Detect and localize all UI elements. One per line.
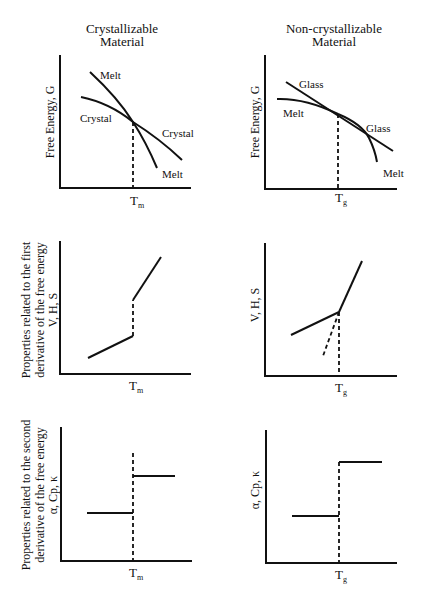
glass-line xyxy=(291,312,339,335)
y-axis-label: α, Cp, κ xyxy=(248,471,262,509)
panel-crystallizable-free-energy: Free Energy, G Melt Crystal Crystal Melt… xyxy=(43,55,194,210)
y-axis-label: V, H, S xyxy=(248,288,262,322)
x-axis-label: Tm xyxy=(129,378,144,395)
svg-text:V, H, S: V, H, S xyxy=(46,293,60,327)
label-melt-top: Melt xyxy=(100,69,121,81)
label-melt-bottom: Melt xyxy=(383,167,404,179)
x-axis-label: Tm xyxy=(130,193,145,210)
y-axis-label: Properties related to the first derivati… xyxy=(19,241,60,378)
x-axis-label: Tg xyxy=(335,567,347,584)
svg-text:α, Cp, κ: α, Cp, κ xyxy=(46,476,60,514)
panel-crystallizable-second-derivative: Properties related to the second derivat… xyxy=(19,420,192,582)
label-glass-right: Glass xyxy=(366,122,390,134)
label-glass-top: Glass xyxy=(299,78,323,90)
x-axis-label: Tg xyxy=(335,190,347,207)
x-axis-label: Tg xyxy=(335,380,347,397)
label-crystal-right: Crystal xyxy=(162,127,194,139)
axes xyxy=(266,430,397,563)
diagram-canvas: Crystallizable Material Non-crystallizab… xyxy=(0,0,422,601)
below-tm-line xyxy=(88,336,133,358)
svg-text:derivative of the free energy: derivative of the free energy xyxy=(33,242,47,378)
label-melt-bottom: Melt xyxy=(162,168,183,180)
svg-text:derivative of the free energy: derivative of the free energy xyxy=(33,427,47,563)
y-axis-label: Properties related to the second derivat… xyxy=(19,420,60,571)
label-crystal-left: Crystal xyxy=(80,112,112,124)
left-column-title-line2: Material xyxy=(100,34,144,49)
label-melt-left: Melt xyxy=(283,107,304,119)
axes xyxy=(61,427,192,561)
panel-crystallizable-first-derivative: Properties related to the first derivati… xyxy=(19,241,191,395)
svg-text:Properties related to the seco: Properties related to the second xyxy=(19,420,33,571)
x-axis-label: Tm xyxy=(129,565,144,582)
axes xyxy=(60,241,191,374)
svg-text:Properties related to the firs: Properties related to the first xyxy=(19,241,33,378)
right-column-title-line2: Material xyxy=(312,34,356,49)
panel-noncrystallizable-second-derivative: α, Cp, κ Tg xyxy=(248,430,397,584)
liquid-line xyxy=(339,261,362,312)
y-axis-label: Free Energy, G xyxy=(43,85,57,158)
axes xyxy=(265,243,397,376)
panel-noncrystallizable-first-derivative: V, H, S Tg xyxy=(248,243,397,397)
panel-noncrystallizable-free-energy: Free Energy, G Glass Melt Glass Melt Tg xyxy=(248,55,404,207)
y-axis-label: Free Energy, G xyxy=(248,85,262,158)
above-tm-line xyxy=(133,257,161,300)
